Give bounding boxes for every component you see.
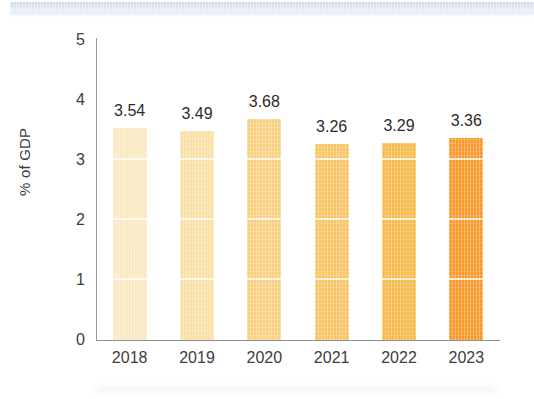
gridline-1 [247,278,281,280]
x-axis-line [96,340,500,341]
bar-fill [247,119,281,340]
gridline-3 [449,158,483,160]
gridline-1 [449,278,483,280]
y-axis-tick-3: 3 [76,151,85,169]
gridline-3 [315,158,349,160]
y-axis-tick-2: 2 [76,211,85,229]
y-axis-tick-5: 5 [76,31,85,49]
bar-value-label-2022: 3.29 [383,117,414,135]
bar-fill [382,143,416,340]
bar-fill [180,131,214,340]
gridline-1 [113,278,147,280]
bar-value-label-2019: 3.49 [181,105,212,123]
y-axis-tick-0: 0 [76,331,85,349]
gridline-1 [315,278,349,280]
top-scan-band-texture [10,2,534,12]
bar-scan-texture [382,143,416,340]
y-axis-label: % of GDP [16,128,33,196]
bar-value-label-2021: 3.26 [316,118,347,136]
bar-2022[interactable] [382,143,416,340]
bar-scan-texture [180,131,214,340]
x-axis-tick-2021: 2021 [314,349,350,367]
gridline-1 [382,278,416,280]
top-scan-band-shadow [10,12,534,17]
bar-fill [449,138,483,340]
top-scan-band [10,2,534,12]
gridline-3 [113,158,147,160]
bar-2019[interactable] [180,131,214,340]
bar-fill [315,144,349,340]
gridline-3 [247,158,281,160]
gridline-2 [247,218,281,220]
bar-2021[interactable] [315,144,349,340]
gridline-3 [180,158,214,160]
bar-2023[interactable] [449,138,483,340]
gridline-2 [449,218,483,220]
bar-scan-texture [449,138,483,340]
gridline-3 [382,158,416,160]
bottom-scan-smudge [96,383,496,395]
y-axis-tick-1: 1 [76,271,85,289]
gridline-1 [180,278,214,280]
gridline-2 [180,218,214,220]
plot-area: 012345 3.543.493.683.263.293.36 [96,40,500,340]
bar-value-label-2018: 3.54 [114,102,145,120]
bar-value-label-2023: 3.36 [451,112,482,130]
x-axis-tick-2019: 2019 [179,349,215,367]
gridline-2 [382,218,416,220]
chart-page: % of GDP 012345 3.543.493.683.263.293.36… [0,0,534,399]
x-axis-tick-2020: 2020 [247,349,283,367]
x-axis-tick-2023: 2023 [449,349,485,367]
gridline-2 [113,218,147,220]
bar-2018[interactable] [113,128,147,340]
gridline-2 [315,218,349,220]
bar-fill [113,128,147,340]
bar-2020[interactable] [247,119,281,340]
bar-scan-texture [315,144,349,340]
bar-scan-texture [247,119,281,340]
x-axis-tick-2018: 2018 [112,349,148,367]
x-axis-tick-2022: 2022 [381,349,417,367]
bar-value-label-2020: 3.68 [249,93,280,111]
y-axis-tick-4: 4 [76,91,85,109]
